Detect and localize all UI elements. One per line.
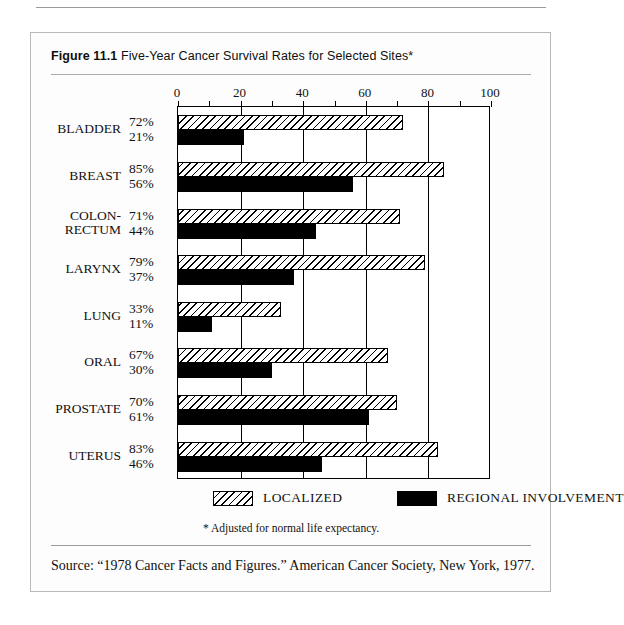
x-axis-labels: 020406080100 [177, 85, 490, 101]
bar-localized [178, 348, 388, 363]
figure-footnote: * Adjusted for normal life expectancy. [203, 522, 379, 534]
x-tick-label-40: 40 [296, 85, 309, 101]
category-label-prostate: PROSTATE [55, 402, 121, 416]
value-label-regional: 11% [129, 316, 163, 332]
category-row: UTERUS83%46% [31, 432, 177, 479]
x-tick-60 [366, 101, 367, 107]
value-label-regional: 56% [129, 176, 163, 192]
bar-regional [178, 270, 294, 285]
value-label-regional: 46% [129, 456, 163, 472]
x-tick-40 [303, 101, 304, 107]
bar-regional [178, 224, 316, 239]
x-tick-20 [241, 101, 242, 107]
figure-title-text: Five-Year Cancer Survival Rates for Sele… [121, 49, 413, 63]
bar-regional [178, 457, 322, 472]
bar-regional [178, 177, 353, 192]
source-divider [51, 545, 531, 546]
category-label-uterus: UTERUS [68, 449, 121, 463]
legend-item: REGIONAL INVOLVEMENT [397, 490, 624, 506]
bar-localized [178, 442, 438, 457]
value-label-localized: 33% [129, 301, 163, 317]
chart-legend: LOCALIZEDREGIONAL INVOLVEMENT [177, 490, 557, 512]
x-tick-90 [460, 101, 461, 106]
value-label-localized: 67% [129, 347, 163, 363]
value-label-localized: 79% [129, 254, 163, 270]
category-row: LUNG33%11% [31, 293, 177, 340]
bar-localized [178, 115, 403, 130]
bar-localized [178, 209, 400, 224]
category-label-breast: BREAST [69, 169, 121, 183]
category-row: COLON-RECTUM71%44% [31, 199, 177, 246]
legend-swatch-localized [213, 491, 253, 506]
bar-localized [178, 395, 397, 410]
x-tick-50 [335, 101, 336, 106]
legend-label: REGIONAL INVOLVEMENT [447, 490, 624, 506]
bar-regional [178, 317, 212, 332]
value-label-localized: 85% [129, 161, 163, 177]
value-label-localized: 70% [129, 394, 163, 410]
figure-source: Source: “1978 Cancer Facts and Figures.”… [51, 558, 535, 574]
figure-title: Figure 11.1 Five-Year Cancer Survival Ra… [51, 49, 413, 63]
x-tick-70 [397, 101, 398, 106]
x-tick-label-100: 100 [480, 85, 500, 101]
x-tick-label-20: 20 [233, 85, 246, 101]
plot-area [177, 106, 490, 479]
category-label-colon-rectum: COLON-RECTUM [47, 209, 121, 237]
figure-number: Figure 11.1 [51, 49, 117, 63]
legend-swatch-regional [397, 491, 437, 506]
legend-label: LOCALIZED [263, 490, 342, 506]
category-row: BLADDER72%21% [31, 106, 177, 153]
category-label-bladder: BLADDER [57, 122, 121, 136]
x-tick-100 [491, 101, 492, 107]
value-label-localized: 71% [129, 208, 163, 224]
category-row: PROSTATE70%61% [31, 386, 177, 433]
x-tick-label-60: 60 [358, 85, 371, 101]
bar-localized [178, 302, 281, 317]
title-divider [51, 74, 531, 75]
figure-container: Figure 11.1 Five-Year Cancer Survival Ra… [30, 32, 551, 592]
value-label-localized: 72% [129, 114, 163, 130]
legend-item: LOCALIZED [213, 490, 342, 506]
value-label-regional: 61% [129, 409, 163, 425]
x-tick-10 [209, 101, 210, 106]
bar-regional [178, 130, 244, 145]
value-label-localized: 83% [129, 441, 163, 457]
category-labels: BLADDER72%21%BREAST85%56%COLON-RECTUM71%… [31, 106, 177, 479]
x-tick-80 [428, 101, 429, 107]
category-label-oral: ORAL [84, 355, 121, 369]
value-label-regional: 30% [129, 362, 163, 378]
bar-localized [178, 255, 425, 270]
value-label-regional: 21% [129, 129, 163, 145]
category-row: LARYNX79%37% [31, 246, 177, 293]
value-label-regional: 37% [129, 269, 163, 285]
x-tick-label-80: 80 [421, 85, 434, 101]
page-top-rule [36, 7, 546, 8]
category-label-lung: LUNG [84, 309, 122, 323]
bar-regional [178, 363, 272, 378]
x-tick-0 [178, 101, 179, 107]
x-tick-30 [272, 101, 273, 106]
value-label-regional: 44% [129, 223, 163, 239]
x-tick-label-0: 0 [174, 85, 181, 101]
category-row: BREAST85%56% [31, 153, 177, 200]
bar-localized [178, 162, 444, 177]
bar-regional [178, 410, 369, 425]
category-label-larynx: LARYNX [65, 262, 121, 276]
category-row: ORAL67%30% [31, 339, 177, 386]
